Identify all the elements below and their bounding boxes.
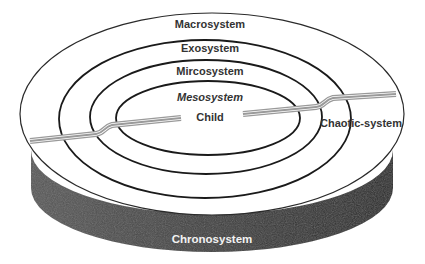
ecological-systems-diagram: Macrosystem Exosystem Mircosystem Mesosy…	[0, 0, 425, 264]
macrosystem-label: Macrosystem	[175, 18, 246, 30]
microsystem-label: Mircosystem	[176, 65, 243, 77]
child-label: Child	[196, 111, 224, 123]
mesosystem-label: Mesosystem	[177, 91, 243, 103]
chaotic-system-label: Chaotic-system	[320, 117, 402, 129]
chronosystem-label: Chronosystem	[172, 233, 253, 245]
exosystem-label: Exosystem	[181, 42, 239, 54]
